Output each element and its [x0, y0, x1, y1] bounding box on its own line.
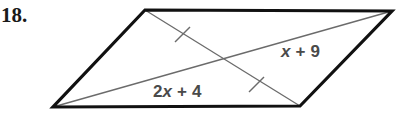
- label-constant-4: 4: [192, 82, 202, 101]
- parallelogram-diagram: x+9 2x+4: [0, 0, 404, 116]
- problem-figure-page: 18. x+9 2x+4: [0, 0, 404, 116]
- label-constant-9: 9: [310, 42, 319, 61]
- label-variable-x: x: [161, 82, 173, 101]
- segment-label-x-plus-9: x+9: [280, 42, 320, 61]
- label-coefficient-2: 2: [153, 82, 162, 101]
- segment-label-2x-plus-4: 2x+4: [153, 82, 202, 101]
- diagonal-bottom-left-to-top-right: [53, 11, 392, 107]
- label-operator-plus: +: [295, 42, 305, 61]
- label-operator-plus: +: [177, 82, 187, 101]
- label-variable-x: x: [280, 42, 292, 61]
